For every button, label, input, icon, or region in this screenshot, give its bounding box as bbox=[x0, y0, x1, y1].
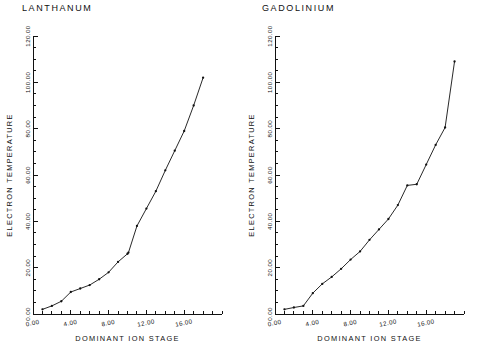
chart-panel-gadolinium: GADOLINIUM 0.0020.0040.0060.0080.00100.0… bbox=[242, 0, 484, 348]
data-point-marker bbox=[425, 163, 427, 165]
data-point-marker bbox=[70, 291, 72, 293]
y-tick-label: 20.00 bbox=[266, 259, 273, 277]
data-point-marker bbox=[155, 190, 157, 192]
y-tick-label: 120.00 bbox=[266, 25, 273, 46]
y-tick-label: 100.00 bbox=[24, 72, 31, 93]
y-tick-label: 80.00 bbox=[266, 120, 273, 138]
y-tick-label: 20.00 bbox=[24, 259, 31, 277]
x-tick-label: 8.00 bbox=[343, 318, 358, 328]
data-point-marker bbox=[397, 204, 399, 206]
data-point-marker bbox=[283, 308, 285, 310]
x-tick-label: 4.00 bbox=[63, 318, 78, 328]
data-point-marker bbox=[331, 276, 333, 278]
chart-panel-lanthanum: LANTHANUM 0.0020.0040.0060.0080.00100.00… bbox=[0, 0, 242, 348]
data-point-marker bbox=[164, 169, 166, 171]
x-tick-label: 0.00 bbox=[267, 318, 282, 328]
series-group-gadolinium bbox=[283, 60, 455, 310]
x-axis-group-gadolinium bbox=[275, 310, 464, 315]
y-axis-group-gadolinium bbox=[275, 36, 280, 314]
y-tick-label: 60.00 bbox=[24, 166, 31, 184]
data-point-marker bbox=[378, 228, 380, 230]
tick-label-group-lanthanum: 0.0020.0040.0060.0080.00100.00120.000.00… bbox=[24, 25, 193, 328]
y-tick-label: 80.00 bbox=[24, 120, 31, 138]
data-point-marker bbox=[453, 60, 455, 62]
plot-svg-lanthanum: 0.0020.0040.0060.0080.00100.00120.000.00… bbox=[0, 0, 242, 348]
series-group-lanthanum bbox=[41, 77, 204, 311]
y-tick-label: 120.00 bbox=[24, 25, 31, 46]
y-axis-group-lanthanum bbox=[33, 36, 38, 314]
y-tick-label: 60.00 bbox=[266, 166, 273, 184]
data-point-marker bbox=[312, 292, 314, 294]
data-point-marker bbox=[321, 283, 323, 285]
data-point-marker bbox=[183, 130, 185, 132]
y-tick-label: 40.00 bbox=[24, 212, 31, 230]
data-point-marker bbox=[444, 126, 446, 128]
data-point-marker bbox=[293, 306, 295, 308]
data-point-marker bbox=[416, 183, 418, 185]
data-point-marker bbox=[79, 287, 81, 289]
data-point-marker bbox=[193, 104, 195, 106]
data-point-marker bbox=[302, 305, 304, 307]
x-axis-group-lanthanum bbox=[33, 310, 222, 315]
data-point-marker bbox=[127, 251, 129, 253]
data-point-marker bbox=[145, 207, 147, 209]
data-point-marker bbox=[89, 284, 91, 286]
data-point-marker bbox=[349, 258, 351, 260]
x-tick-label: 4.00 bbox=[305, 318, 320, 328]
y-axis-title: ELECTRON TEMPERATURE bbox=[5, 113, 14, 236]
x-tick-label: 8.00 bbox=[101, 318, 116, 328]
x-tick-label: 12.00 bbox=[379, 317, 398, 328]
data-point-marker bbox=[51, 305, 53, 307]
axis-title-group-lanthanum: ELECTRON TEMPERATUREDOMINANT ION STAGE bbox=[5, 113, 180, 343]
data-point-marker bbox=[340, 268, 342, 270]
x-axis-title: DOMINANT ION STAGE bbox=[317, 334, 421, 343]
data-point-marker bbox=[202, 77, 204, 79]
figure-canvas: LANTHANUM 0.0020.0040.0060.0080.00100.00… bbox=[0, 0, 484, 348]
plot-svg-gadolinium: 0.0020.0040.0060.0080.00100.00120.000.00… bbox=[242, 0, 484, 348]
data-point-marker bbox=[435, 144, 437, 146]
data-point-marker bbox=[359, 250, 361, 252]
x-tick-label: 16.00 bbox=[416, 317, 435, 328]
x-tick-label: 0.00 bbox=[25, 318, 40, 328]
data-point-marker bbox=[117, 261, 119, 263]
data-point-marker bbox=[41, 308, 43, 310]
data-point-marker bbox=[107, 271, 109, 273]
data-series-line bbox=[284, 61, 454, 309]
y-axis-title: ELECTRON TEMPERATURE bbox=[247, 113, 256, 236]
data-series-line bbox=[42, 78, 203, 310]
x-axis-title: DOMINANT ION STAGE bbox=[75, 334, 179, 343]
data-point-marker bbox=[387, 218, 389, 220]
y-tick-label: 100.00 bbox=[266, 72, 273, 93]
y-tick-label: 40.00 bbox=[266, 212, 273, 230]
x-tick-label: 16.00 bbox=[174, 317, 193, 328]
x-tick-label: 12.00 bbox=[137, 317, 156, 328]
data-point-marker bbox=[406, 184, 408, 186]
data-point-marker bbox=[174, 150, 176, 152]
data-point-marker bbox=[98, 278, 100, 280]
data-point-marker bbox=[368, 239, 370, 241]
data-point-marker bbox=[60, 300, 62, 302]
tick-label-group-gadolinium: 0.0020.0040.0060.0080.00100.00120.000.00… bbox=[266, 25, 435, 328]
axis-title-group-gadolinium: ELECTRON TEMPERATUREDOMINANT ION STAGE bbox=[247, 113, 422, 343]
data-point-marker bbox=[136, 225, 138, 227]
